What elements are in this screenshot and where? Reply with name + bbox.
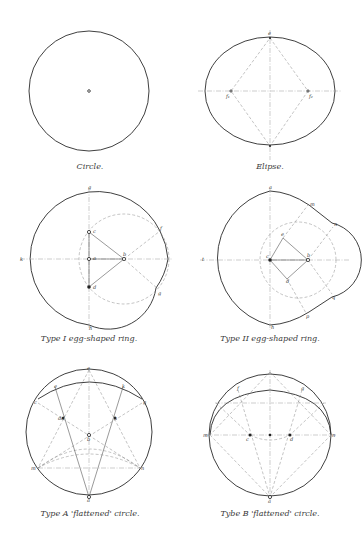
- svg-text:n: n: [141, 465, 144, 471]
- caption-circle: Circle.: [77, 162, 104, 171]
- caption-type-b-flattened: Tybe B 'flattened' circle.: [220, 509, 319, 518]
- svg-text:e: e: [268, 30, 271, 36]
- svg-text:d: d: [286, 278, 289, 284]
- svg-text:c: c: [93, 228, 96, 234]
- svg-text:k: k: [20, 256, 23, 262]
- svg-text:c: c: [246, 436, 249, 442]
- svg-text:c: c: [34, 399, 37, 405]
- svg-text:n: n: [332, 432, 335, 438]
- svg-text:e: e: [87, 365, 90, 371]
- ellipse-figure: e f₁ f₂: [198, 30, 342, 160]
- svg-text:b: b: [307, 252, 310, 258]
- svg-text:h: h: [89, 325, 92, 331]
- svg-text:g: g: [158, 290, 161, 297]
- type-a-flattened-figure: e e k c g dd h b m n a: [26, 365, 152, 503]
- svg-text:h: h: [114, 415, 117, 421]
- geometry-diagrams: e f₁ f₂ g c a b d f g h k: [0, 0, 363, 540]
- svg-text:k: k: [122, 383, 125, 389]
- svg-text:a: a: [87, 497, 90, 503]
- svg-text:m: m: [31, 465, 36, 471]
- svg-text:a: a: [93, 255, 96, 261]
- svg-text:m: m: [310, 201, 315, 207]
- caption-type-1-egg: Type I egg-shaped ring.: [41, 334, 137, 343]
- svg-text:a: a: [269, 184, 272, 190]
- svg-text:h: h: [271, 324, 274, 330]
- svg-text:g: g: [143, 399, 146, 406]
- type-2-egg-figure: a m n e b c d q p h t: [200, 184, 361, 330]
- svg-text:n: n: [334, 221, 337, 227]
- svg-text:t: t: [202, 256, 205, 262]
- svg-text:b: b: [123, 251, 126, 257]
- caption-type-a-flattened: Type A 'flattened' circle.: [41, 509, 140, 518]
- svg-text:d: d: [290, 436, 293, 442]
- center-point-icon: [88, 90, 91, 93]
- svg-text:d: d: [93, 284, 96, 290]
- svg-text:f: f: [236, 385, 240, 392]
- svg-text:e: e: [281, 231, 284, 237]
- svg-text:p: p: [306, 313, 310, 320]
- circle-figure: [29, 31, 149, 151]
- svg-text:q: q: [332, 294, 335, 301]
- caption-ellipse: Elipse.: [256, 162, 283, 171]
- svg-text:b: b: [87, 436, 90, 442]
- svg-text:g: g: [88, 184, 91, 191]
- svg-text:a: a: [268, 498, 271, 504]
- svg-text:m: m: [203, 432, 208, 438]
- caption-type-2-egg: Type II egg-shaped ring.: [220, 334, 320, 343]
- svg-text:f₂: f₂: [308, 93, 313, 100]
- svg-text:e: e: [54, 383, 57, 389]
- svg-text:dd: dd: [58, 415, 64, 421]
- type-1-egg-figure: g c a b d f g h k: [20, 184, 172, 331]
- svg-text:f₁: f₁: [225, 93, 230, 100]
- svg-text:f: f: [159, 225, 163, 232]
- type-b-flattened-figure: f g m c d n a: [203, 370, 336, 504]
- svg-text:g: g: [301, 385, 304, 392]
- svg-text:c: c: [266, 253, 269, 259]
